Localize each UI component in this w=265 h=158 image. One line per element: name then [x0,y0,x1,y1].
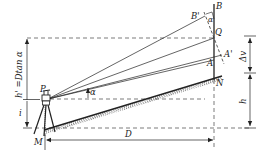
label-a: A [206,58,213,68]
label-alpha: α [90,87,96,97]
sloped-ground-line [44,76,222,130]
sight-line-a [48,60,214,99]
label-h-prime: h' =Dtan α [14,51,24,98]
sight-line-b-prime [48,16,205,99]
label-i: i [19,108,22,118]
label-d: D [124,129,132,139]
label-n: N [215,78,224,88]
label-b-prime: B' [190,11,200,21]
label-m: M [33,137,43,147]
label-alpha-small: α [208,15,213,24]
label-delta-v: Δv [238,51,248,63]
label-q: Q [215,27,222,37]
trig-leveling-diagram: B B' α Q A' A N P α M D i h' =Dtan α Δv … [0,0,265,158]
sight-line-a-prime [48,55,222,99]
label-b: B [215,1,222,11]
label-p: P [39,84,46,94]
label-h: h [238,99,248,104]
label-a-prime: A' [223,49,232,59]
